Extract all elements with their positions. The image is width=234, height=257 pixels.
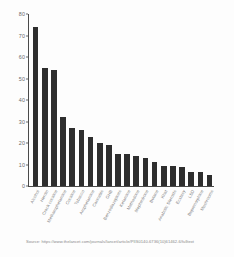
x-label-slot: Butane — [150, 188, 159, 233]
bar — [179, 167, 185, 186]
x-tick-label: Ecstasy — [175, 189, 187, 205]
bar — [51, 70, 57, 186]
x-label-slot: Ecstasy — [178, 188, 187, 233]
chart-figure: 01020304050607080 AlcoholHeroinCrack coc… — [0, 0, 234, 257]
x-label-slot: Cocaine — [68, 188, 77, 233]
plot-area: 01020304050607080 — [28, 14, 214, 186]
bar — [143, 158, 149, 186]
source-caption: Source: https://www.thelancet.com/journa… — [26, 239, 194, 244]
x-label-slot: Cannabis — [95, 188, 104, 233]
x-label-slot: Methamphetamine — [58, 188, 67, 233]
bar — [33, 27, 39, 186]
bar-series — [28, 14, 214, 186]
x-label-slot: Mushrooms — [205, 188, 214, 233]
bar-column — [159, 14, 168, 186]
bar — [106, 145, 112, 186]
y-tick-label: 10 — [19, 162, 25, 168]
x-axis-line — [28, 186, 214, 187]
bar-column — [40, 14, 49, 186]
bar — [79, 130, 85, 186]
x-label-slot: Alcohol — [31, 188, 40, 233]
bar — [161, 166, 167, 186]
x-tick-label: Alcohol — [29, 189, 40, 204]
y-tick-label: 60 — [19, 54, 25, 60]
bar — [88, 137, 94, 186]
bar — [124, 154, 130, 186]
bar — [198, 172, 204, 186]
bar — [115, 154, 121, 186]
bar-column — [86, 14, 95, 186]
bar — [42, 68, 48, 186]
bar — [60, 117, 66, 186]
bar-column — [68, 14, 77, 186]
bar-column — [168, 14, 177, 186]
bar-column — [49, 14, 58, 186]
bar — [152, 162, 158, 186]
bar — [133, 156, 139, 186]
bar-column — [58, 14, 67, 186]
bar-column — [113, 14, 122, 186]
bar — [170, 166, 176, 186]
bar-column — [132, 14, 141, 186]
y-tick-label: 70 — [19, 33, 25, 39]
y-axis-line — [28, 14, 29, 187]
bar-column — [104, 14, 113, 186]
bar — [188, 172, 194, 186]
bar-column — [187, 14, 196, 186]
x-tick-label: Butane — [148, 189, 159, 204]
y-tick-label: 40 — [19, 97, 25, 103]
y-tick-label: 50 — [19, 76, 25, 82]
bar — [69, 128, 75, 186]
bar-column — [205, 14, 214, 186]
x-label-slot: Mephedrone — [141, 188, 150, 233]
y-tick-label: 30 — [19, 119, 25, 125]
bar-column — [123, 14, 132, 186]
bar-column — [178, 14, 187, 186]
bar-column — [95, 14, 104, 186]
x-label-slot: Anabolic Steroids — [168, 188, 177, 233]
bar-column — [141, 14, 150, 186]
bar-column — [150, 14, 159, 186]
bar — [97, 143, 103, 186]
x-label-slot: Amphetamine — [86, 188, 95, 233]
bar-column — [77, 14, 86, 186]
x-label-slot: Benzodiazepines — [113, 188, 122, 233]
x-axis-labels: AlcoholHeroinCrack cocaineMethamphetamin… — [28, 188, 214, 233]
bar-column — [31, 14, 40, 186]
bar-column — [196, 14, 205, 186]
y-tick-label: 80 — [19, 11, 25, 17]
x-label-slot: Ketamine — [123, 188, 132, 233]
bar — [207, 175, 213, 186]
y-tick-label: 20 — [19, 140, 25, 146]
